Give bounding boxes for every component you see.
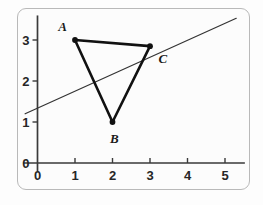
x-tick-label-5: 5 [221,169,228,182]
x-tick-label-3: 3 [146,169,153,182]
point-label-a: A [58,20,67,33]
x-tick-label-0: 0 [34,169,41,182]
y-tick-label-3: 3 [22,34,29,47]
point-label-b: B [110,131,119,144]
vertex-dot-b [110,119,116,125]
diagonal-line [25,18,236,114]
triangle-ABC [75,40,150,122]
x-tick-label-4: 4 [184,169,191,182]
x-tick-label-2: 2 [109,169,116,182]
vertex-dot-c [147,43,153,49]
y-tick-label-0: 0 [22,157,29,170]
x-tick-label-1: 1 [71,169,78,182]
vertex-dot-a [72,37,78,43]
y-tick-label-2: 2 [22,75,29,88]
point-label-c: C [158,51,167,64]
y-tick-label-1: 1 [22,116,29,129]
figure-screenshot: 0123450123ABC [0,0,263,205]
